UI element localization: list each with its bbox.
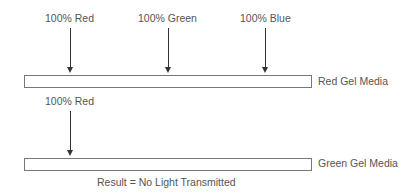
source-label-green: 100% Green xyxy=(138,12,197,24)
arrow-down-icon xyxy=(168,28,169,68)
red-gel-media-label: Red Gel Media xyxy=(318,75,388,87)
arrow-down-icon xyxy=(265,28,266,68)
arrow-down-icon xyxy=(70,28,71,68)
red-gel-media-bar xyxy=(24,75,312,88)
green-gel-media-label: Green Gel Media xyxy=(318,157,398,169)
source-label-red: 100% Red xyxy=(45,12,94,24)
arrow-down-icon xyxy=(70,111,71,151)
green-gel-media-bar xyxy=(24,158,312,171)
source-label-blue: 100% Blue xyxy=(240,12,291,24)
source-label-red: 100% Red xyxy=(45,95,94,107)
result-label: Result = No Light Transmitted xyxy=(97,176,236,188)
